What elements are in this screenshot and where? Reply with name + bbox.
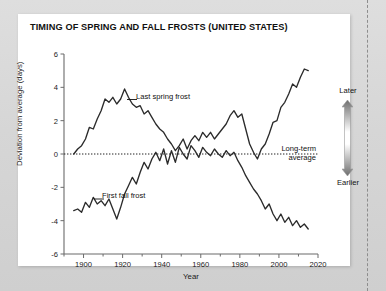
y-tick-label: 2 — [36, 116, 58, 125]
y-axis-title: Deviation from average (days) — [15, 62, 24, 166]
gradient-legend: Later Earlier — [334, 86, 378, 190]
y-tick-label: -6 — [36, 250, 58, 259]
y-tick-label: -2 — [36, 183, 58, 192]
x-axis-title: Year — [64, 272, 318, 281]
x-tick-label: 1940 — [153, 260, 170, 269]
x-tick-label: 1920 — [114, 260, 131, 269]
x-tick-label: 1960 — [192, 260, 209, 269]
annotation-last-spring-frost: Last spring frost — [136, 93, 190, 102]
y-tick-label: -4 — [36, 216, 58, 225]
figure-card: TIMING OF SPRING AND FALL FROSTS (UNITED… — [18, 14, 350, 266]
y-tick-label: 6 — [36, 50, 58, 59]
x-tick-marks — [64, 254, 318, 258]
y-tick-label: 0 — [36, 150, 58, 159]
x-tick-label: 1980 — [231, 260, 248, 269]
gradient-arrow-icon — [342, 100, 353, 176]
x-tick-label: 1900 — [75, 260, 92, 269]
x-tick-label: 2000 — [270, 260, 287, 269]
legend-label-later: Later — [328, 86, 368, 95]
x-tick-label: 2020 — [310, 260, 327, 269]
annotation-first-fall-frost: First fall frost — [102, 192, 145, 201]
y-tick-label: 4 — [36, 83, 58, 92]
annotation-long-term-average-line2: average — [269, 154, 316, 163]
page-title: TIMING OF SPRING AND FALL FROSTS (UNITED… — [30, 22, 288, 32]
annotation-long-term-average: Long-term average — [269, 145, 316, 162]
legend-label-earlier: Earlier — [328, 178, 368, 187]
